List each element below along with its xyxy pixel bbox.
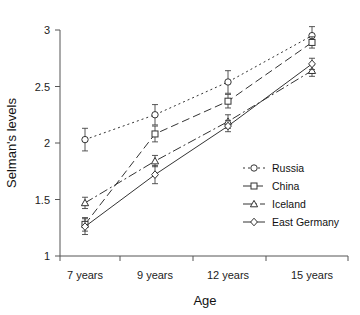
data-point-russia bbox=[82, 136, 88, 142]
legend-label-iceland: Iceland bbox=[272, 198, 306, 210]
x-tick-label: 9 years bbox=[137, 269, 174, 281]
x-tick-label: 7 years bbox=[67, 269, 104, 281]
y-tick-label: 1.5 bbox=[35, 194, 50, 206]
y-tick-label: 3 bbox=[44, 24, 50, 36]
data-point-east-germany bbox=[309, 60, 316, 68]
data-point-russia bbox=[225, 79, 231, 85]
legend-marker-russia bbox=[251, 165, 257, 171]
data-point-china bbox=[152, 131, 158, 137]
data-point-east-germany bbox=[152, 171, 159, 179]
chart-svg: 11.522.537 years9 years12 years15 yearsA… bbox=[0, 0, 360, 315]
legend-label-east-germany: East Germany bbox=[272, 216, 340, 228]
legend-marker-east-germany bbox=[251, 218, 258, 226]
data-point-iceland bbox=[151, 157, 158, 163]
x-tick-label: 15 years bbox=[291, 269, 334, 281]
chart-figure: 11.522.537 years9 years12 years15 yearsA… bbox=[0, 0, 360, 315]
y-tick-label: 2.5 bbox=[35, 81, 50, 93]
legend-label-russia: Russia bbox=[272, 162, 304, 174]
x-tick-label: 12 years bbox=[207, 269, 250, 281]
data-point-iceland bbox=[81, 199, 88, 205]
data-point-china bbox=[309, 39, 315, 45]
y-axis-title: Selman's levels bbox=[4, 98, 19, 188]
y-tick-label: 2 bbox=[44, 137, 50, 149]
series-line-russia bbox=[85, 36, 312, 140]
data-point-china bbox=[225, 98, 231, 104]
legend-marker-china bbox=[251, 183, 257, 189]
legend-label-china: China bbox=[272, 180, 300, 192]
x-axis-title: Age bbox=[193, 293, 216, 308]
y-tick-label: 1 bbox=[44, 250, 50, 262]
data-point-russia bbox=[152, 112, 158, 118]
